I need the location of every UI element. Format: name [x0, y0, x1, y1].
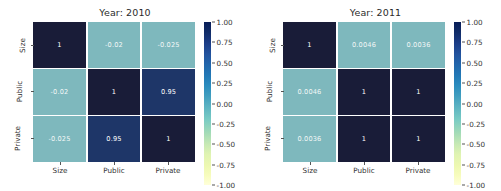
colorbar-tick: 0.75: [462, 38, 483, 47]
heatmap-panel-2011: Year: 2011 1 0.0046 0.0036 0.0046 1: [250, 0, 501, 191]
colorbar-ticks-2011: 1.00 0.75 0.50 0.25 0.00: [462, 22, 498, 185]
colorbar-tick: 1.00: [212, 18, 233, 27]
cell-value: 0.0046: [352, 42, 376, 49]
x-axis-ticks-2010: Size Public Private: [33, 166, 195, 175]
heatmap-panel-2010: Year: 2010 1 -0.02 -0.025 -0.02 1: [0, 0, 250, 191]
colorbar-tick: -0.50: [212, 140, 235, 149]
cell-value: 0.0046: [297, 89, 321, 96]
heatmap-cell-grid-2011: 1 0.0046 0.0036 0.0046 1 1 0.0: [283, 22, 445, 162]
cell-value: 1: [416, 136, 420, 143]
colorbar-tick-label: -0.75: [467, 160, 486, 169]
colorbar-tick: 1.00: [462, 18, 483, 27]
colorbar-tick-mark: [212, 103, 215, 104]
cell-value: 1: [166, 136, 170, 143]
colorbar-tick-mark: [462, 144, 465, 145]
colorbar-tick-mark: [462, 42, 465, 43]
heatmap-cell: -0.025: [33, 116, 86, 162]
heatmap-cell-grid-2010: 1 -0.02 -0.025 -0.02 1 0.95 -0: [33, 22, 195, 162]
colorbar-2011: 1.00 0.75 0.50 0.25 0.00: [454, 22, 461, 185]
colorbar-tick: -1.00: [212, 181, 235, 190]
colorbar-tick: -0.75: [212, 160, 235, 169]
cell-value: 1: [57, 42, 61, 49]
y-tick: Size: [255, 22, 280, 69]
colorbar-tick-mark: [462, 62, 465, 63]
colorbar-tick-label: 0.00: [467, 99, 483, 108]
x-tick-mark: [60, 162, 61, 165]
x-tick-label: Size: [283, 166, 337, 175]
heatmap-cell: 0.95: [142, 69, 195, 115]
panel-title-2010: Year: 2010: [0, 7, 250, 18]
y-tick-mark: [31, 45, 34, 46]
colorbar-tick-mark: [212, 185, 215, 186]
x-tick-label: Size: [33, 166, 87, 175]
colorbar-tick-mark: [212, 164, 215, 165]
colorbar-tick-label: 0.75: [217, 38, 233, 47]
cell-value: 1: [362, 136, 366, 143]
colorbar-tick-label: 0.25: [217, 79, 233, 88]
y-axis-ticks-2011: Size Public Private: [255, 22, 280, 162]
colorbar-tick: -0.50: [462, 140, 485, 149]
y-tick-label: Private: [263, 126, 272, 151]
colorbar-ticks-2010: 1.00 0.75 0.50 0.25 0.00: [212, 22, 248, 185]
heatmap-cell: 1: [392, 116, 445, 162]
colorbar-tick-label: 0.75: [467, 38, 483, 47]
y-tick: Size: [5, 22, 30, 69]
heatmap-cell: 1: [142, 116, 195, 162]
colorbar-tick-label: -1.00: [217, 181, 236, 190]
cell-value: 0.95: [106, 136, 121, 143]
y-tick-label: Public: [15, 81, 24, 102]
y-tick: Private: [5, 115, 30, 162]
colorbar-tick-label: -0.50: [217, 140, 236, 149]
y-tick-mark: [281, 138, 284, 139]
y-axis-ticks-2010: Size Public Private: [5, 22, 30, 162]
y-tick-mark: [281, 91, 284, 92]
figure-canvas: Year: 2010 1 -0.02 -0.025 -0.02 1: [0, 0, 501, 191]
x-axis-ticks-2011: Size Public Private: [283, 166, 445, 175]
colorbar-tick: 0.50: [462, 58, 483, 67]
colorbar-tick: -0.25: [462, 119, 485, 128]
colorbar-tick-label: 0.50: [217, 58, 233, 67]
y-tick-mark: [31, 138, 34, 139]
y-tick: Public: [255, 69, 280, 116]
colorbar-tick: -1.00: [462, 181, 485, 190]
x-tick-mark: [310, 162, 311, 165]
colorbar-tick-label: 0.25: [467, 79, 483, 88]
cell-value: -0.025: [48, 136, 70, 143]
cell-value: 1: [307, 42, 311, 49]
colorbar-tick: 0.25: [212, 79, 233, 88]
x-tick-mark: [418, 162, 419, 165]
heatmap-cell: 1: [338, 116, 391, 162]
x-tick-label: Private: [141, 166, 195, 175]
x-tick-mark: [364, 162, 365, 165]
colorbar-tick-mark: [212, 22, 215, 23]
colorbar-tick-mark: [212, 83, 215, 84]
colorbar-tick-label: 1.00: [467, 18, 483, 27]
heatmap-cell: 0.0046: [338, 22, 391, 68]
cell-value: 0.95: [161, 89, 176, 96]
heatmap-cell: 1: [283, 22, 336, 68]
heatmap-cell: -0.02: [88, 22, 141, 68]
colorbar-tick: -0.75: [462, 160, 485, 169]
x-tick-label: Public: [337, 166, 391, 175]
colorbar-tick-mark: [462, 22, 465, 23]
cell-value: 1: [112, 89, 116, 96]
heatmap-plot-area-2010: 1 -0.02 -0.025 -0.02 1 0.95 -0: [33, 22, 195, 162]
colorbar-tick-label: 0.00: [217, 99, 233, 108]
y-tick: Private: [255, 115, 280, 162]
y-tick-label: Private: [13, 126, 22, 151]
colorbar-tick-label: -1.00: [467, 181, 486, 190]
heatmap-cell: 1: [33, 22, 86, 68]
heatmap-cell: 1: [338, 69, 391, 115]
cell-value: -0.02: [105, 42, 123, 49]
x-tick-mark: [114, 162, 115, 165]
colorbar-tick: 0.75: [212, 38, 233, 47]
heatmap-cell: 1: [392, 69, 445, 115]
x-tick-mark: [168, 162, 169, 165]
heatmap-cell: 0.0036: [392, 22, 445, 68]
colorbar-tick-label: 1.00: [217, 18, 233, 27]
cell-value: 1: [416, 89, 420, 96]
colorbar-tick: 0.50: [212, 58, 233, 67]
x-tick-label: Public: [87, 166, 141, 175]
cell-value: 0.0036: [407, 42, 431, 49]
cell-value: -0.02: [51, 89, 69, 96]
